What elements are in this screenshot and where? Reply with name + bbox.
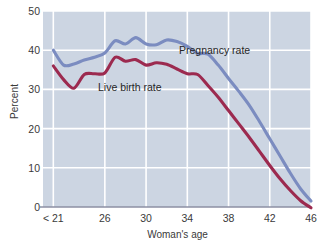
x-axis-title: Woman's age: [40, 229, 315, 240]
x-tick-label: 42: [264, 212, 276, 224]
y-tick-label: 10: [14, 163, 40, 173]
x-tick-label: 46: [305, 212, 317, 224]
y-tick-label: 20: [14, 124, 40, 134]
x-tick-label: 38: [223, 212, 235, 224]
pregnancy-rate-label: Pregnancy rate: [179, 44, 250, 56]
x-tick-label: 30: [140, 212, 152, 224]
x-tick-label: 26: [99, 212, 111, 224]
y-tick-label: 30: [14, 84, 40, 94]
x-tick-label: 34: [181, 212, 193, 224]
pregnancy-live-birth-rate-chart: Percent 0 10 20 30 40 50 < 2126303438424…: [0, 0, 325, 248]
x-tick-label: < 21: [43, 212, 64, 224]
y-tick-label: 50: [14, 6, 40, 16]
y-tick-label: 0: [14, 202, 40, 212]
y-tick-label: 40: [14, 45, 40, 55]
plot-area: [0, 0, 325, 248]
live-birth-rate-label: Live birth rate: [98, 81, 162, 93]
y-axis-tick-labels: 0 10 20 30 40 50: [14, 0, 40, 248]
